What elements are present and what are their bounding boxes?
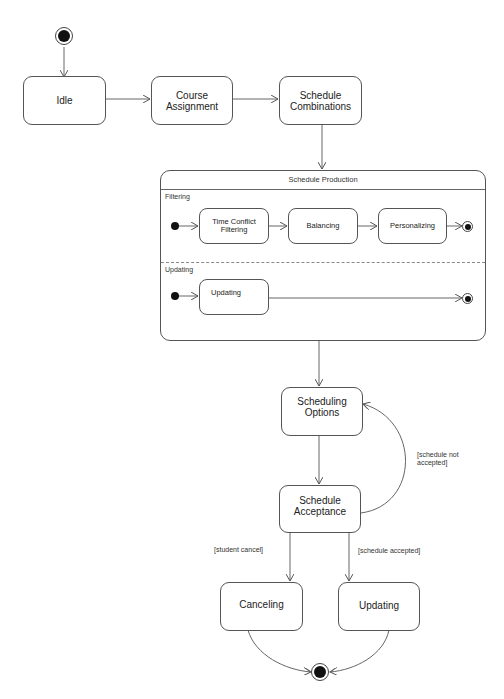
state-label: Schedule Combinations xyxy=(288,90,354,112)
state-idle[interactable]: Idle xyxy=(23,76,106,125)
state-schedule-combinations[interactable]: Schedule Combinations xyxy=(279,76,362,125)
region-initial-icon xyxy=(171,292,179,300)
initial-state-icon xyxy=(55,27,73,45)
state-canceling[interactable]: Canceling xyxy=(220,582,303,631)
composite-state-schedule-production[interactable]: Schedule Production xyxy=(160,170,486,341)
region-final-icon xyxy=(462,293,473,304)
state-schedule-acceptance[interactable]: Schedule Acceptance xyxy=(279,485,361,533)
state-updating[interactable]: Updating xyxy=(338,582,420,631)
composite-title-divider xyxy=(161,189,485,190)
state-label: Balancing xyxy=(307,222,340,231)
state-label: Idle xyxy=(56,95,72,106)
region-divider xyxy=(161,262,485,263)
state-label: Canceling xyxy=(239,599,283,610)
composite-title: Schedule Production xyxy=(161,175,485,184)
state-label: Time Conflict Filtering xyxy=(208,218,260,235)
state-scheduling-options[interactable]: Scheduling Options xyxy=(281,387,363,436)
state-time-conflict-filtering[interactable]: Time Conflict Filtering xyxy=(199,208,269,244)
state-label: Updating xyxy=(359,600,399,611)
state-label: Scheduling Options xyxy=(294,396,350,418)
region-final-icon xyxy=(462,221,473,232)
state-personalizing[interactable]: Personalizing xyxy=(378,208,447,244)
state-label: Course Assignment xyxy=(162,90,222,112)
guard-student-cancel: [student cancel] xyxy=(214,546,263,554)
state-updating-inner[interactable]: Updating xyxy=(199,279,269,315)
region-label-updating: Updating xyxy=(165,266,193,273)
state-balancing[interactable]: Balancing xyxy=(288,208,358,244)
state-label: Schedule Acceptance xyxy=(287,495,353,517)
region-initial-icon xyxy=(171,222,179,230)
state-label: Updating xyxy=(211,289,241,298)
guard-schedule-not-accepted: [schedule not accepted] xyxy=(417,451,467,467)
final-state-icon xyxy=(311,663,329,681)
region-label-filtering: Filtering xyxy=(165,193,190,200)
state-label: Personalizing xyxy=(390,222,435,231)
guard-schedule-accepted: [schedule accepted] xyxy=(358,547,420,555)
state-course-assignment[interactable]: Course Assignment xyxy=(151,76,233,125)
